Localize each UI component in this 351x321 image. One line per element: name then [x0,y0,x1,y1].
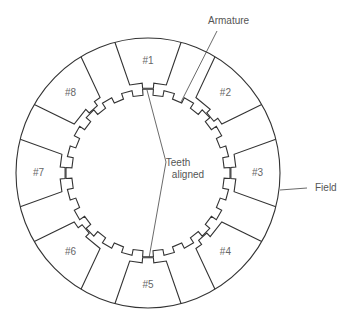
armature-rotor [66,89,230,257]
field-leader-line [280,188,307,190]
pole-label-5: #5 [142,279,154,290]
motor-diagram: Armature Field Teeth aligned #1#2#3#4#5#… [0,0,351,321]
teeth-aligned-label-line1: Teeth [166,157,190,168]
teeth-aligned-label-line2: aligned [172,169,204,180]
field-poles [20,42,276,303]
pole-label-8: #8 [65,87,77,98]
pole-label-2: #2 [220,87,232,98]
pole-label-3: #3 [252,167,264,178]
pole-label-1: #1 [142,55,154,66]
field-label: Field [315,182,337,193]
pole-label-7: #7 [33,167,45,178]
pole-label-6: #6 [65,246,77,257]
armature-label: Armature [208,15,250,26]
teeth-aligned-pointer [147,90,166,258]
pole-label-4: #4 [220,246,232,257]
field-outer-ring [16,38,280,308]
